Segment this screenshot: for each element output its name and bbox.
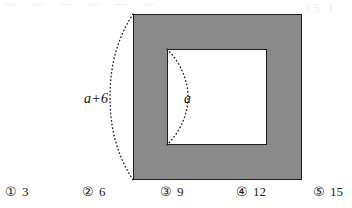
choice-value-2: 6 [99,185,106,198]
inner-side-length-label: a [184,91,191,107]
answer-choice-row: ① 3 ② 6 ③ 9 ④ 12 ⑤ 15 [0,185,352,208]
choice-value-5: 15 [330,185,343,198]
choice-value-4: 12 [253,185,266,198]
answer-choice-3[interactable]: ③ 9 [160,185,184,198]
answer-choice-4[interactable]: ④ 12 [236,185,266,198]
choice-marker-4: ④ [236,185,248,198]
dimension-arc-layer [0,0,352,208]
choice-marker-3: ③ [160,185,172,198]
figure-stage: ― ― ― ― ― ― 15 1 a+6 a ① 3 ② 6 ③ 9 ④ 12 … [0,0,352,208]
choice-marker-5: ⑤ [313,185,325,198]
answer-choice-1[interactable]: ① 3 [5,185,29,198]
choice-marker-1: ① [5,185,17,198]
outer-side-length-label: a+6 [84,91,108,107]
answer-choice-5[interactable]: ⑤ 15 [313,185,343,198]
choice-value-1: 3 [22,185,29,198]
outer-side-dimension-arc [110,14,133,180]
answer-choice-2[interactable]: ② 6 [82,185,106,198]
choice-marker-2: ② [82,185,94,198]
choice-value-3: 9 [177,185,184,198]
